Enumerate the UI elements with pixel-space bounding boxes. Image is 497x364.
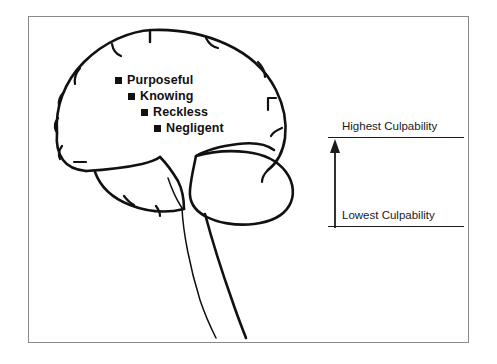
list-item: Knowing — [128, 88, 295, 104]
culpability-level-label: Purposeful — [127, 73, 193, 87]
scale-bottom-rule — [328, 226, 464, 227]
culpability-level-label: Knowing — [140, 89, 193, 103]
culpability-level-label: Negligent — [166, 121, 224, 135]
list-item: Negligent — [154, 120, 295, 136]
culpability-level-label: Reckless — [153, 105, 208, 119]
scale-top-rule — [328, 137, 464, 138]
upward-arrow-icon — [328, 138, 342, 228]
square-bullet-icon — [128, 93, 135, 100]
square-bullet-icon — [141, 109, 148, 116]
list-item: Reckless — [141, 104, 295, 120]
culpability-scale: Highest Culpability Lowest Culpability — [328, 112, 464, 232]
list-item: Purposeful — [115, 72, 295, 88]
brain-culpability-figure: Purposeful Knowing Reckless Negligent Hi… — [0, 0, 497, 364]
square-bullet-icon — [154, 125, 161, 132]
scale-top-caption: Highest Culpability — [342, 120, 437, 132]
culpability-level-list: Purposeful Knowing Reckless Negligent — [115, 72, 295, 136]
scale-bottom-caption: Lowest Culpability — [342, 209, 435, 221]
square-bullet-icon — [115, 77, 122, 84]
